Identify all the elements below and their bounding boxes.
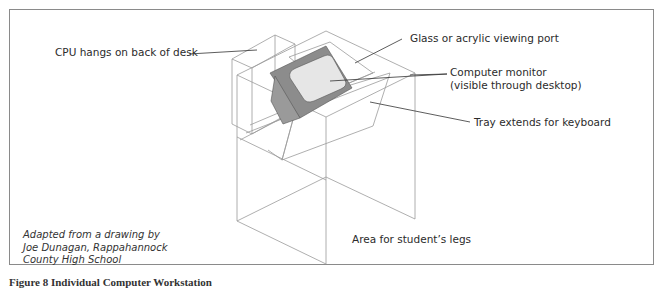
credit-line3: County High School [23,254,168,267]
credit-line1: Adapted from a drawing by [23,229,168,242]
label-monitor: Computer monitor (visible through deskto… [450,66,582,92]
label-monitor-line1: Computer monitor [450,66,582,79]
tray-leader [370,102,470,122]
monitor-icon [270,46,352,124]
drawing-credit: Adapted from a drawing by Joe Dunagan, R… [23,229,168,267]
figure-caption: Figure 8 Individual Computer Workstation [9,276,212,288]
credit-line2: Joe Dunagan, Rappahannock [23,242,168,255]
label-monitor-line2: (visible through desktop) [450,79,582,92]
label-tray: Tray extends for keyboard [474,116,611,129]
monitor-leader [330,74,447,81]
label-cpu: CPU hangs on back of desk [55,46,198,59]
glass-leader [355,39,402,63]
label-legs: Area for student’s legs [352,233,471,246]
monitor-leader-2 [410,74,447,75]
cpu-leader [189,50,257,54]
label-glass: Glass or acrylic viewing port [410,32,559,45]
